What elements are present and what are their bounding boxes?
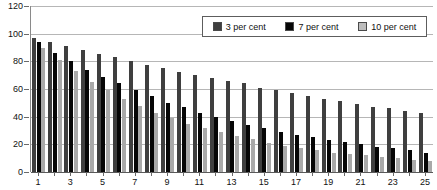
bar: [230, 121, 234, 172]
x-tick-label: 11: [195, 177, 204, 187]
bar: [117, 83, 121, 172]
legend-label: 10 per cent: [371, 22, 416, 32]
x-tick-mark: [425, 172, 426, 176]
bar: [391, 148, 395, 172]
legend-swatch-icon: [358, 22, 367, 31]
bar: [170, 118, 174, 172]
bar: [154, 113, 158, 172]
bar-group: [64, 6, 80, 172]
bar: [396, 158, 400, 172]
x-tick-mark: [38, 172, 39, 176]
x-tick-mark: [151, 172, 152, 176]
bar: [32, 38, 36, 172]
x-tick-mark: [232, 172, 233, 176]
x-tick-mark: [215, 172, 216, 176]
x-tick-label: 17: [291, 177, 301, 187]
x-tick-label: 5: [100, 177, 105, 187]
bar-group: [97, 6, 113, 172]
bar: [166, 103, 170, 172]
bar: [274, 90, 278, 172]
bar: [387, 108, 391, 172]
bar: [348, 154, 352, 172]
x-tick-mark: [54, 172, 55, 176]
legend-label: 7 per cent: [298, 22, 338, 32]
y-tick-label: 100: [8, 29, 23, 39]
x-tick-mark: [167, 172, 168, 176]
bar: [74, 71, 78, 172]
bar: [262, 128, 266, 172]
bar: [37, 42, 41, 172]
x-tick-mark: [312, 172, 313, 176]
bar: [81, 50, 85, 172]
bar: [299, 148, 303, 172]
bar: [64, 46, 68, 172]
bar: [41, 48, 45, 173]
bar: [419, 113, 423, 172]
x-tick-mark: [280, 172, 281, 176]
x-tick-mark: [264, 172, 265, 176]
x-tick-mark: [199, 172, 200, 176]
bar: [359, 144, 363, 172]
legend-entry-3-per-cent: 3 per cent: [213, 22, 266, 32]
bar: [311, 137, 315, 172]
bar: [428, 161, 432, 172]
x-tick-mark: [183, 172, 184, 176]
bar: [53, 53, 57, 172]
bar: [424, 153, 428, 172]
y-tick-label: 60: [13, 84, 23, 94]
x-tick-mark: [344, 172, 345, 176]
bar: [106, 90, 110, 172]
bar: [380, 157, 384, 172]
x-tick-mark: [393, 172, 394, 176]
bar: [203, 128, 207, 172]
bar: [90, 82, 94, 172]
bar-group: [161, 6, 177, 172]
x-tick-mark: [377, 172, 378, 176]
y-tick-mark: [24, 172, 29, 173]
bar: [138, 106, 142, 172]
bar: [235, 136, 239, 172]
bar: [150, 96, 154, 172]
x-tick-label: 13: [226, 177, 236, 187]
x-tick-mark: [360, 172, 361, 176]
x-tick-mark: [135, 172, 136, 176]
bar: [58, 60, 62, 172]
bar: [306, 96, 310, 172]
bar: [343, 142, 347, 172]
y-tick-mark: [24, 117, 29, 118]
bar-group: [129, 6, 145, 172]
bar-group: [81, 6, 97, 172]
bar: [214, 117, 218, 172]
bar: [327, 140, 331, 172]
bar: [48, 42, 52, 172]
legend-swatch-icon: [213, 22, 222, 31]
bar: [129, 61, 133, 172]
x-tick-mark: [248, 172, 249, 176]
bar: [198, 113, 202, 172]
y-tick-label: 20: [13, 139, 23, 149]
x-tick-label: 23: [388, 177, 398, 187]
bar: [210, 78, 214, 172]
bar: [279, 132, 283, 172]
y-tick-label: 0: [18, 167, 23, 177]
legend-entry-10-per-cent: 10 per cent: [358, 22, 416, 32]
y-axis: 020406080100120: [0, 0, 30, 190]
bar: [258, 88, 262, 172]
bar: [295, 135, 299, 172]
bar-chart: the whole life costs 020406080100120 135…: [0, 0, 437, 190]
bar: [101, 77, 105, 172]
bar: [69, 61, 73, 172]
y-tick-mark: [24, 61, 29, 62]
bar: [355, 104, 359, 172]
x-tick-mark: [70, 172, 71, 176]
bar: [113, 57, 117, 172]
bar: [283, 146, 287, 172]
legend-swatch-icon: [285, 22, 294, 31]
x-axis: 135791113151719212325: [30, 172, 433, 190]
bar-group: [177, 6, 193, 172]
chart-legend: 3 per cent 7 per cent 10 per cent: [202, 16, 427, 37]
bar: [322, 99, 326, 172]
y-tick-mark: [24, 89, 29, 90]
bar-group: [48, 6, 64, 172]
x-tick-label: 15: [259, 177, 269, 187]
